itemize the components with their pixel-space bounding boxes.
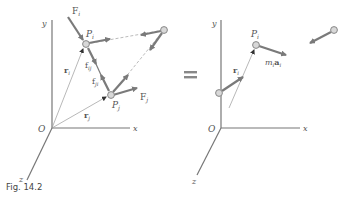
force-fji-arrow	[101, 75, 109, 91]
fji-label: fji	[92, 77, 99, 88]
x-axis-label: x	[303, 124, 308, 133]
force-fij-arrow	[88, 48, 96, 64]
figure-caption: Fig. 14.2	[6, 182, 42, 192]
link-pi-pj	[96, 64, 101, 75]
origin-label: O	[208, 124, 216, 134]
force-pk-to-pj	[150, 33, 162, 50]
position-vector-rj	[52, 97, 106, 128]
force-pk-to-pi	[141, 31, 161, 35]
fij-label: fij	[85, 61, 92, 72]
left-diagram: y x z O Fi Fj Pi Pj fij fji ri rj	[18, 6, 167, 184]
force-Fi-arrow	[68, 17, 83, 40]
Fj-label: Fj	[140, 92, 148, 104]
ri-label: ri	[233, 65, 239, 76]
effective-force-pj	[222, 77, 243, 91]
z-axis	[197, 128, 221, 175]
figure-canvas: y x z O Fi Fj Pi Pj fij fji ri rj y x z …	[0, 0, 354, 204]
Pj-label: Pj	[111, 100, 120, 112]
Pi-label: Pi	[85, 29, 94, 40]
Pi-label: Pi	[250, 29, 259, 40]
particle-Pj	[108, 92, 115, 99]
origin-label: O	[38, 124, 46, 134]
y-axis-label: y	[211, 19, 217, 28]
miai-label: miai	[265, 57, 282, 68]
particle-Pi	[253, 42, 260, 49]
z-axis-label: z	[191, 177, 197, 186]
right-diagram: y x z O Pi ri miai	[191, 19, 337, 186]
rj-label: rj	[84, 110, 90, 122]
equals-sign	[184, 71, 197, 78]
particle-Pk	[161, 27, 168, 34]
ri-label: ri	[64, 65, 70, 76]
particle-Pj	[216, 90, 223, 97]
particle-Pk	[331, 27, 338, 34]
position-vector-ri	[52, 49, 83, 128]
effective-force-pk	[310, 32, 331, 43]
y-axis-label: y	[41, 19, 47, 28]
Fi-label: Fi	[72, 6, 80, 17]
particle-Pi	[83, 41, 90, 48]
effective-force-miai	[259, 46, 286, 55]
force-pj-to-pk	[113, 75, 128, 92]
x-axis-label: x	[133, 124, 138, 133]
z-axis	[27, 128, 52, 180]
